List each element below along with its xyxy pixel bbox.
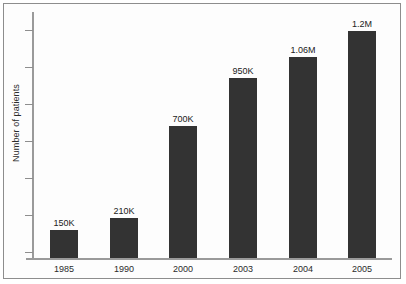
y-axis-tick [25,141,33,142]
bar-group: 700K [169,110,197,258]
bar-group: 1.06M [289,41,317,258]
y-axis-title: Number of patients [11,63,21,183]
bar-value-label: 1.06M [290,45,315,55]
bar [289,57,317,258]
y-axis-tick [25,215,33,216]
bar [348,31,376,258]
y-axis-tick [25,178,33,179]
bar-value-label: 210K [113,206,134,216]
x-axis-tick-label: 2000 [158,264,208,274]
bar-value-label: 1.2M [352,19,372,29]
bar-group: 150K [50,214,78,258]
bar-group: 1.2M [348,15,376,258]
bar-value-label: 700K [172,114,193,124]
x-axis-tick-label: 2004 [278,264,328,274]
y-axis-tick [25,30,33,31]
bar-group: 210K [110,202,138,258]
x-axis-tick-label: 2005 [337,264,387,274]
y-axis-tick [25,104,33,105]
bar [110,218,138,258]
bar [229,78,257,258]
x-axis-tick-label: 1990 [99,264,149,274]
y-axis-tick [25,67,33,68]
y-axis-line [32,12,34,259]
bar-value-label: 150K [53,218,74,228]
bar-group: 950K [229,62,257,258]
bar-value-label: 950K [232,66,253,76]
x-axis-tick-label: 2003 [218,264,268,274]
x-axis-line [26,258,392,260]
bar [169,126,197,258]
bar [50,230,78,258]
x-axis-tick-label: 1985 [39,264,89,274]
y-axis-tick [25,252,33,253]
bar-chart: Number of patients 150K210K700K950K1.06M… [0,0,406,284]
